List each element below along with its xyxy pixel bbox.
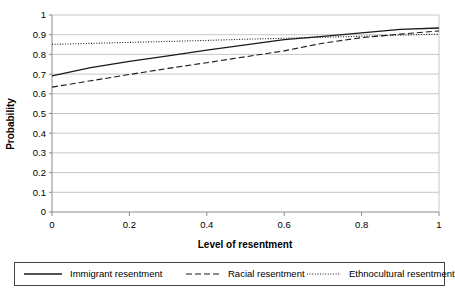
y-tick-label: 0.2 [33, 167, 46, 178]
x-axis-title: Level of resentment [198, 239, 293, 250]
series-line-1 [52, 31, 439, 87]
x-tick-label: 0.2 [123, 219, 136, 230]
y-tick-label: 1 [41, 9, 46, 20]
x-tick-label: 0.4 [200, 219, 213, 230]
y-tick-label: 0.6 [33, 88, 46, 99]
x-tick-marks [52, 212, 439, 216]
legend-entries: Immigrant resentmentRacial resentmentEth… [24, 268, 455, 279]
x-axis-tick-labels: 00.20.40.60.81 [49, 219, 441, 230]
x-tick-label: 0 [49, 219, 54, 230]
data-series-group [52, 28, 439, 87]
y-tick-label: 0.9 [33, 29, 46, 40]
y-tick-label: 0.7 [33, 69, 46, 80]
y-tick-label: 0 [41, 206, 46, 217]
y-tick-label: 0.1 [33, 187, 46, 198]
y-axis-tick-labels: 00.10.20.30.40.50.60.70.80.91 [33, 9, 46, 217]
x-tick-label: 0.6 [278, 219, 291, 230]
legend-label-2: Ethnocultural resentment [349, 268, 455, 279]
series-line-0 [52, 28, 439, 76]
legend-label-0: Immigrant resentment [70, 268, 163, 279]
probability-line-chart: 00.10.20.30.40.50.60.70.80.91 00.20.40.6… [0, 0, 455, 289]
y-gridlines [52, 15, 439, 192]
y-tick-label: 0.4 [33, 128, 46, 139]
y-tick-label: 0.5 [33, 108, 46, 119]
x-tick-label: 0.8 [355, 219, 368, 230]
y-tick-label: 0.3 [33, 147, 46, 158]
x-tick-label: 1 [436, 219, 441, 230]
legend-label-1: Racial resentment [228, 268, 305, 279]
chart-canvas: 00.10.20.30.40.50.60.70.80.91 00.20.40.6… [0, 0, 455, 289]
y-tick-label: 0.8 [33, 49, 46, 60]
chart-legend: Immigrant resentmentRacial resentmentEth… [15, 263, 455, 286]
y-axis-title: Probability [5, 98, 16, 150]
